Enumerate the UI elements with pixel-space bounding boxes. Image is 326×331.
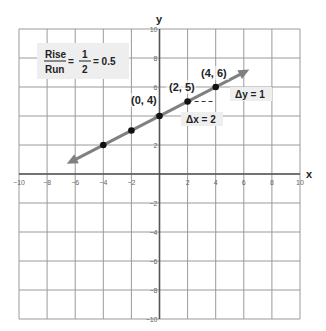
- data-point: [212, 84, 219, 91]
- x-axis-label: x: [306, 168, 313, 180]
- y-tick-label: −2: [150, 200, 158, 207]
- formula-eq1: =: [68, 56, 74, 67]
- x-tick-label: 2: [186, 179, 190, 186]
- formula-rise: Rise: [45, 49, 67, 60]
- delta-y-label: Δy = 1: [235, 89, 265, 100]
- y-tick-label: 6: [154, 84, 158, 91]
- x-tick-label: 10: [296, 179, 304, 186]
- point-label-0-4: (0, 4): [131, 94, 157, 106]
- x-tick-label: −6: [71, 179, 79, 186]
- data-point: [156, 113, 163, 120]
- formula-run: Run: [45, 64, 64, 75]
- x-tick-label: 4: [214, 179, 218, 186]
- x-tick-label: −2: [127, 179, 135, 186]
- formula-num: 1: [82, 49, 88, 60]
- y-tick-label: 2: [154, 142, 158, 149]
- slope-chart: −10−8−6−4−2246810108642−2−4−6−8−10 y x R…: [0, 0, 326, 331]
- x-tick-label: 8: [270, 179, 274, 186]
- y-tick-label: −10: [146, 316, 158, 323]
- y-tick-label: 8: [154, 55, 158, 62]
- y-tick-label: 10: [150, 26, 158, 33]
- formula-den: 2: [82, 64, 88, 75]
- formula-result: = 0.5: [93, 56, 116, 67]
- x-tick-label: 6: [242, 179, 246, 186]
- y-tick-label: −4: [150, 229, 158, 236]
- data-point: [100, 142, 107, 149]
- data-point: [184, 98, 191, 105]
- data-point: [128, 127, 135, 134]
- delta-x-label: Δx = 2: [186, 114, 216, 125]
- x-tick-label: −4: [99, 179, 107, 186]
- y-tick-label: −8: [150, 287, 158, 294]
- y-axis-label: y: [156, 13, 163, 25]
- point-label-4-6: (4, 6): [201, 67, 227, 79]
- slope-formula: Rise Run = 1 2 = 0.5: [37, 43, 129, 79]
- point-label-2-5: (2, 5): [169, 81, 195, 93]
- y-tick-label: −6: [150, 258, 158, 265]
- x-tick-label: −8: [43, 179, 51, 186]
- x-tick-label: −10: [13, 179, 25, 186]
